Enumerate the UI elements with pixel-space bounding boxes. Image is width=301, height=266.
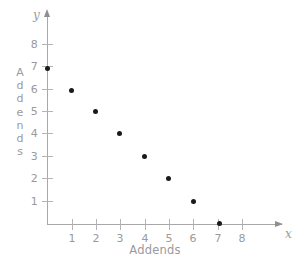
x-axis-title: Addends [100,243,210,257]
x-axis-variable-label: x [285,227,292,241]
x-tick-mark [169,219,170,230]
y-axis-title-letter: d [13,92,27,105]
y-tick-mark [42,178,53,179]
y-axis-title-letter: d [13,132,27,145]
y-axis-title-letter: n [13,119,27,132]
x-tick-mark [72,219,73,230]
y-tick-label: 1 [24,195,38,208]
scatter-plot-figure: y x 8 7 6 5 4 3 2 1 1 2 3 4 5 6 [0,0,301,266]
y-axis-title-letter: d [13,79,27,92]
y-axis-title: A d d e n d s [13,66,27,158]
y-axis-variable-label: y [33,8,40,22]
y-axis-line [47,16,48,225]
x-tick-label: 1 [65,232,79,245]
y-axis-title-letter: e [13,106,27,119]
x-tick-mark [120,219,121,230]
data-point [93,109,98,114]
x-tick-label: 8 [235,232,249,245]
y-tick-label: 8 [24,38,38,51]
data-point [45,66,50,71]
data-point [166,176,171,181]
x-tick-mark [96,219,97,230]
x-axis-arrow-icon [275,221,283,227]
y-tick-mark [42,133,53,134]
x-axis-line [47,224,282,225]
y-tick-mark [42,156,53,157]
x-tick-mark [145,219,146,230]
data-point [217,221,222,226]
data-point [117,131,122,136]
data-point [69,88,74,93]
y-tick-mark [42,89,53,90]
plot-area: y x 8 7 6 5 4 3 2 1 1 2 3 4 5 6 [0,0,301,266]
y-axis-title-letter: A [13,66,27,79]
x-tick-label: 7 [211,232,225,245]
data-point [191,199,196,204]
y-axis-arrow-icon [44,9,50,17]
x-tick-mark [242,219,243,230]
x-tick-mark [193,219,194,230]
data-point [142,154,147,159]
y-tick-label: 2 [24,172,38,185]
y-tick-mark [42,111,53,112]
y-tick-mark [42,201,53,202]
y-tick-mark [42,44,53,45]
y-axis-title-letter: s [13,145,27,158]
